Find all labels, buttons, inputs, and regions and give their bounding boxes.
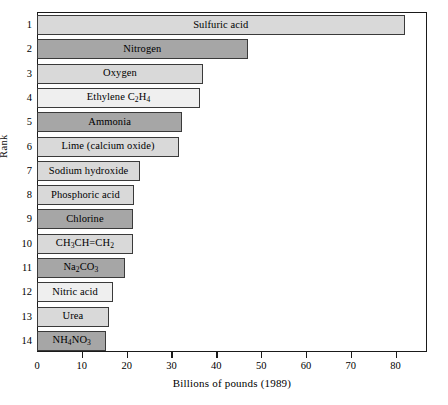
- bar-label: Sodium hydroxide: [49, 166, 128, 177]
- x-tick-label-40: 40: [211, 360, 222, 371]
- x-tick-80: [396, 352, 397, 358]
- bar-11[interactable]: Na2CO3: [37, 258, 125, 278]
- y-tick-label-4: 4: [10, 93, 32, 104]
- bar-label: Chlorine: [66, 214, 104, 225]
- bar-label: Ammonia: [88, 117, 131, 128]
- y-tick-label-3: 3: [10, 69, 32, 80]
- bar-12[interactable]: Nitric acid: [37, 282, 113, 302]
- bar-4[interactable]: Ethylene C2H4: [37, 88, 200, 108]
- y-tick-label-10: 10: [10, 239, 32, 250]
- y-tick-label-6: 6: [10, 142, 32, 153]
- y-tick-label-9: 9: [10, 214, 32, 225]
- x-tick-20: [127, 352, 128, 358]
- chart-figure: 1234567891011121314 Rank Sulfuric acidNi…: [0, 0, 448, 405]
- x-tick-label-10: 10: [77, 360, 88, 371]
- bar-label: Sulfuric acid: [193, 20, 248, 31]
- bars-area: Sulfuric acidNitrogenOxygenEthylene C2H4…: [37, 12, 427, 352]
- bar-6[interactable]: Lime (calcium oxide): [37, 137, 179, 157]
- y-tick-label-2: 2: [10, 44, 32, 55]
- bar-5[interactable]: Ammonia: [37, 112, 182, 132]
- x-tick-70: [351, 352, 352, 358]
- bar-label: NH4NO3: [52, 335, 91, 347]
- bar-14[interactable]: NH4NO3: [37, 331, 106, 351]
- x-tick-30: [171, 352, 172, 358]
- x-tick-50: [261, 352, 262, 358]
- y-tick-label-5: 5: [10, 117, 32, 128]
- bar-label: Nitric acid: [52, 287, 98, 298]
- bar-2[interactable]: Nitrogen: [37, 39, 248, 59]
- x-tick-label-30: 30: [166, 360, 177, 371]
- bar-label: Urea: [62, 311, 83, 322]
- bar-label: Lime (calcium oxide): [62, 141, 155, 152]
- bar-10[interactable]: CH3CH=CH2: [37, 234, 133, 254]
- bar-9[interactable]: Chlorine: [37, 209, 133, 229]
- bar-1[interactable]: Sulfuric acid: [37, 15, 405, 35]
- y-tick-label-13: 13: [10, 312, 32, 323]
- x-tick-label-80: 80: [390, 360, 401, 371]
- bar-label: Oxygen: [103, 68, 137, 79]
- x-tick-10: [82, 352, 83, 358]
- bar-label: Phosphoric acid: [51, 190, 120, 201]
- bar-label: Na2CO3: [63, 262, 98, 274]
- x-tick-40: [216, 352, 217, 358]
- bar-label: CH3CH=CH2: [56, 238, 114, 250]
- x-tick-label-60: 60: [301, 360, 312, 371]
- y-tick-label-11: 11: [10, 263, 32, 274]
- y-tick-label-1: 1: [10, 20, 32, 31]
- bar-label: Ethylene C2H4: [87, 92, 150, 104]
- x-tick-60: [306, 352, 307, 358]
- bar-label: Nitrogen: [123, 44, 161, 55]
- x-tick-label-0: 0: [34, 360, 39, 371]
- bar-7[interactable]: Sodium hydroxide: [37, 161, 140, 181]
- bar-3[interactable]: Oxygen: [37, 64, 203, 84]
- y-tick-label-12: 12: [10, 287, 32, 298]
- y-axis-label: Rank: [0, 134, 9, 158]
- x-tick-label-20: 20: [121, 360, 132, 371]
- y-tick-label-8: 8: [10, 190, 32, 201]
- bar-8[interactable]: Phosphoric acid: [37, 185, 134, 205]
- x-axis-label: Billions of pounds (1989): [37, 377, 427, 389]
- y-tick-label-7: 7: [10, 166, 32, 177]
- x-tick-label-50: 50: [256, 360, 267, 371]
- x-tick-label-70: 70: [346, 360, 357, 371]
- y-tick-label-14: 14: [10, 336, 32, 347]
- bar-13[interactable]: Urea: [37, 307, 109, 327]
